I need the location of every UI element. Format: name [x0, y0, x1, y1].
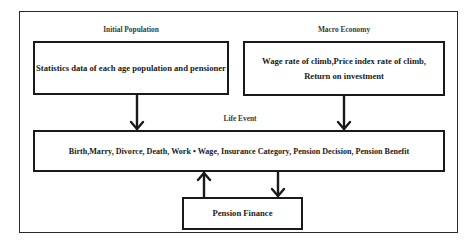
initial-population-text: Statistics data of each age population a… [36, 61, 226, 76]
macro-economy-text-line-1: Wage rate of climb,Price index rate of c… [262, 54, 426, 69]
macro-economy-text-line-2: Return on investment [304, 69, 384, 84]
macro-economy-label: Macro Economy [243, 25, 445, 34]
life-event-text: Birth,Marry, Divorce, Death, Work • Wage… [69, 144, 410, 159]
macro-economy-box: Wage rate of climb,Price index rate of c… [243, 41, 445, 96]
life-event-label: Life Event [190, 114, 290, 123]
pension-finance-text: Pension Finance [213, 206, 273, 221]
life-event-box: Birth,Marry, Divorce, Death, Work • Wage… [33, 130, 445, 172]
initial-population-box: Statistics data of each age population a… [33, 41, 229, 95]
pension-finance-box: Pension Finance [182, 197, 303, 230]
initial-population-label: Initial Population [33, 25, 229, 34]
